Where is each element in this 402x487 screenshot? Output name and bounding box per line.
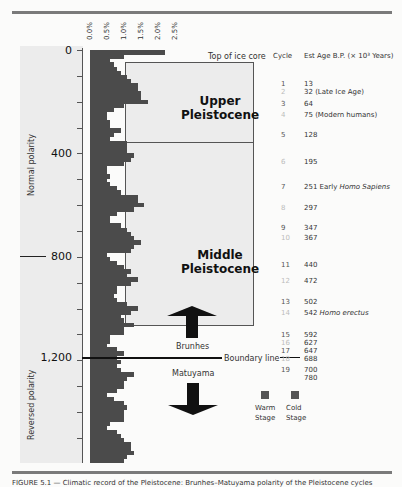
cycle-number: 18 [281,355,290,363]
warm-stage-swatch [261,391,269,399]
cycle-number: 2 [281,88,285,96]
top-rule [12,11,392,14]
legend: Warm Stage Cold Stage [258,391,328,431]
age-value: 251 Early Homo Sapiens [304,183,390,191]
boundary-line-label: Boundary line [222,354,282,363]
y-tick [77,179,82,180]
y-axis-line [82,48,83,463]
figure-caption: FIGURE 5.1 — Climatic record of the Plei… [12,479,372,487]
y-tick [77,386,82,387]
cycle-number: 8 [281,204,285,212]
cycle-number: 6 [281,158,285,166]
y-tick [77,334,82,335]
y-tick [77,257,82,258]
arrow-down-icon [168,383,218,415]
y-tick [77,102,82,103]
cold-stage-label: Cold Stage [286,403,306,423]
age-value: 32 (Late Ice Age) [304,88,364,96]
middle-pleistocene-label: Middle Pleistocene [175,248,265,276]
age-value: 700 [304,366,317,374]
age-value: 688 [304,355,317,363]
cycle-number: 16 [281,339,290,347]
age-value: 64 [304,100,313,108]
cycle-number: 12 [281,277,290,285]
age-value: 297 [304,204,317,212]
matuyama-label: Matuyama [172,369,214,378]
age-value: 592 [304,331,317,339]
warm-stage-label: Warm Stage [255,403,275,423]
y-tick [77,231,82,232]
age-value: 347 [304,224,317,232]
y-label-0: 0 [32,44,72,57]
cycle-number: 11 [281,261,290,269]
normal-polarity-label: Normal polarity [27,134,36,196]
top-of-ice-core-label: Top of ice core [208,52,266,61]
age-value: 780 [304,374,317,382]
x-tick-label: 1.0% [120,22,128,40]
upper-pleistocene-label: Upper Pleistocene [175,94,265,122]
age-value: 75 (Modern humans) [304,111,377,119]
cycle-number: 13 [281,298,290,306]
cycle-number: 15 [281,331,290,339]
age-value: 195 [304,158,317,166]
y-tick [77,50,82,51]
cycle-number: 1 [281,80,285,88]
y-tick [77,438,82,439]
cycle-number: 3 [281,100,285,108]
age-header: Est Age B.P. (× 10³ Years) [304,52,393,60]
cycle-number: 19 [281,366,290,374]
age-value: 647 [304,347,317,355]
bar [90,459,124,464]
cycle-header: Cycle [273,52,292,60]
x-tick-label: 2.0% [154,22,162,40]
y-tick [77,412,82,413]
x-tick-label: 2.5% [171,22,179,40]
polarity-divider [20,256,46,257]
x-tick-label: 0.5% [103,22,111,40]
cycle-number: 17 [281,347,290,355]
cycle-number: 4 [281,111,285,119]
y-tick [77,283,82,284]
y-tick [77,128,82,129]
arrow-up-icon [167,306,217,338]
age-value: 502 [304,298,317,306]
cycle-number: 14 [281,309,290,317]
y-tick [77,76,82,77]
age-value: 367 [304,234,317,242]
y-label-1200: 1,200 [32,351,72,364]
age-value: 472 [304,277,317,285]
age-value: 13 [304,80,313,88]
y-tick [77,153,82,154]
cold-stage-swatch [291,391,299,399]
age-value: 128 [304,131,317,139]
bottom-rule [12,471,392,474]
age-value: 627 [304,339,317,347]
y-tick [77,309,82,310]
brunhes-label: Brunhes [176,342,209,351]
age-value: 440 [304,261,317,269]
middle-pleistocene-box [125,142,254,326]
y-label-400: 400 [32,147,72,160]
y-tick [77,205,82,206]
y-tick [77,360,82,361]
cycle-number: 10 [281,234,290,242]
cycle-number: 9 [281,224,285,232]
cycle-number: 7 [281,183,285,191]
x-tick-label: 1.5% [137,22,145,40]
cycle-number: 5 [281,131,285,139]
age-value: 542 Homo erectus [304,309,369,317]
reversed-polarity-label: Reversed polarity [27,370,36,440]
x-tick-label: 0.0% [86,22,94,40]
